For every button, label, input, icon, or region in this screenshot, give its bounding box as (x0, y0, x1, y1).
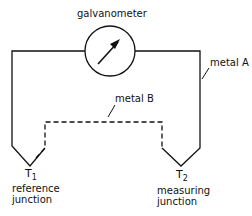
reference-junction-label: referencejunction (12, 183, 60, 205)
measuring-junction-label: measuringjunction (157, 185, 210, 207)
metal-a-wire (12, 51, 85, 166)
galvanometer-label: galvanometer (77, 8, 147, 19)
metal-b-pointer (108, 105, 115, 117)
t1-label: T1 (25, 167, 37, 182)
metal-a-label: metal A (210, 57, 249, 68)
metal-b-wire (36, 122, 162, 158)
metal-a-wire-right (135, 51, 200, 166)
t2-label: T2 (176, 168, 188, 183)
metal-a-pointer (202, 68, 209, 79)
metal-b-label: metal B (115, 93, 154, 104)
